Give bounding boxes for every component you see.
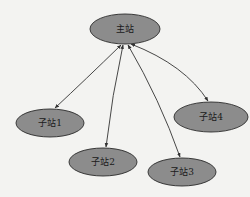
node-sub3[interactable]: 子站3 <box>148 158 216 186</box>
star-topology-diagram: 主站 子站1 子站2 子站3 子站4 <box>0 0 250 197</box>
node-sub1[interactable]: 子站1 <box>16 109 84 137</box>
sub3-label: 子站3 <box>170 166 194 177</box>
edge-master-sub2 <box>106 45 123 147</box>
node-sub4[interactable]: 子站4 <box>174 102 248 132</box>
sub4-label: 子站4 <box>199 111 223 122</box>
edge-master-sub1 <box>55 45 121 108</box>
sub2-label: 子站2 <box>91 156 115 167</box>
edge-master-sub3 <box>128 45 180 157</box>
node-master[interactable]: 主站 <box>90 14 160 44</box>
edges <box>55 44 208 157</box>
master-label: 主站 <box>116 23 134 34</box>
node-sub2[interactable]: 子站2 <box>69 148 137 176</box>
sub1-label: 子站1 <box>38 117 62 128</box>
edge-master-sub4 <box>131 44 208 101</box>
